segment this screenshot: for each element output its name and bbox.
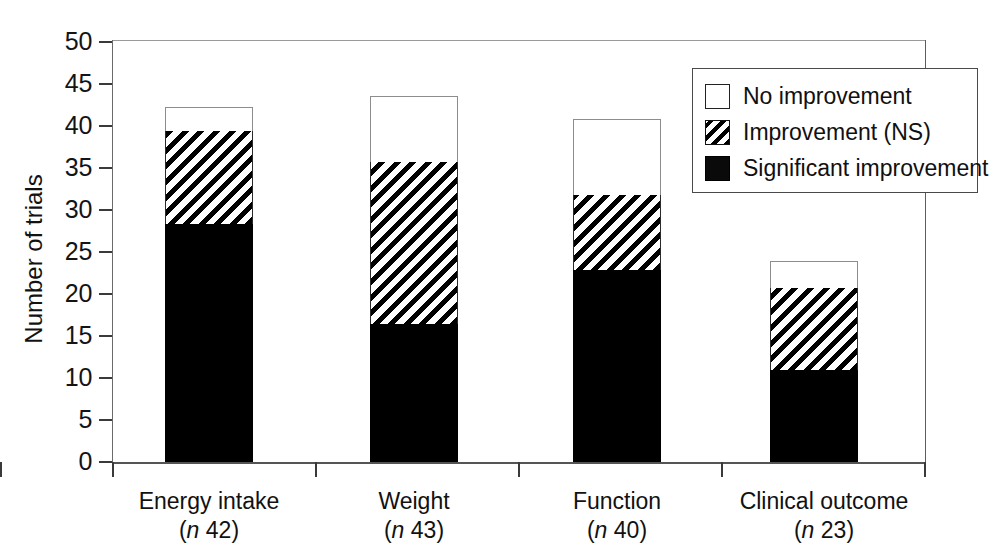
y-tick-label: 25 <box>2 239 92 264</box>
y-tick-label: 5 <box>2 407 92 432</box>
plot-frame-top <box>112 40 926 41</box>
y-tick-label: 35 <box>2 155 92 180</box>
bar-segment-significant-improvement <box>370 324 458 462</box>
y-tick-label: 45 <box>2 71 92 96</box>
black-square-icon <box>705 156 730 181</box>
hatched-square-icon <box>705 120 730 145</box>
category-name: Energy intake <box>116 487 302 516</box>
category-n: (n 40) <box>524 516 710 545</box>
y-tick-mark <box>99 125 112 127</box>
legend-item-no-improvement: No improvement <box>705 78 977 114</box>
y-tick-mark <box>99 251 112 253</box>
y-tick-mark <box>99 461 112 463</box>
chart-figure: Number of trials 50 45 40 35 30 25 20 <box>0 0 1008 550</box>
y-tick-label: 0 <box>2 449 92 474</box>
bar-segment-no-improvement <box>165 107 253 131</box>
y-tick-mark <box>99 293 112 295</box>
legend-item-significant-improvement: Significant improvement <box>705 150 977 186</box>
bar-segment-improvement-ns <box>370 162 458 324</box>
x-tick-mark <box>924 462 926 477</box>
category-name: Clinical outcome <box>721 487 927 516</box>
chart-legend: No improvement Improvement (NS) Signific… <box>692 68 978 193</box>
x-category-label-weight: Weight (n 43) <box>321 487 507 545</box>
y-tick-mark <box>99 41 112 43</box>
y-tick-mark <box>99 335 112 337</box>
y-tick-mark <box>99 209 112 211</box>
y-tick-mark <box>99 377 112 379</box>
y-tick-mark <box>99 419 112 421</box>
bar-segment-improvement-ns <box>770 288 858 370</box>
x-tick-mark <box>518 462 520 477</box>
category-name: Weight <box>321 487 507 516</box>
category-n: (n 43) <box>321 516 507 545</box>
x-category-label-clinical-outcome: Clinical outcome (n 23) <box>721 487 927 545</box>
category-n: (n 42) <box>116 516 302 545</box>
bar-segment-no-improvement <box>370 96 458 162</box>
bar-segment-significant-improvement <box>573 270 661 462</box>
bar-clinical-outcome <box>770 261 858 462</box>
y-axis-line <box>112 40 113 463</box>
y-tick-label: 40 <box>2 113 92 138</box>
y-tick-label: 15 <box>2 323 92 348</box>
bar-weight <box>370 96 458 462</box>
x-category-label-energy-intake: Energy intake (n 42) <box>116 487 302 545</box>
bar-segment-improvement-ns <box>165 131 253 224</box>
bar-energy-intake <box>165 107 253 462</box>
bar-segment-improvement-ns <box>573 195 661 270</box>
category-name: Function <box>524 487 710 516</box>
bar-segment-significant-improvement <box>165 224 253 462</box>
y-tick-label: 30 <box>2 197 92 222</box>
x-tick-mark <box>112 462 114 477</box>
y-tick-label: 10 <box>2 365 92 390</box>
x-tick-mark <box>721 462 723 477</box>
y-tick-label: 50 <box>2 29 92 54</box>
legend-item-improvement-ns: Improvement (NS) <box>705 114 977 150</box>
legend-label: Improvement (NS) <box>743 121 931 144</box>
category-n: (n 23) <box>721 516 927 545</box>
bar-segment-significant-improvement <box>770 370 858 462</box>
x-category-label-function: Function (n 40) <box>524 487 710 545</box>
y-tick-mark <box>99 167 112 169</box>
bar-segment-no-improvement <box>770 261 858 288</box>
white-square-icon <box>705 84 730 109</box>
legend-label: No improvement <box>743 85 912 108</box>
y-tick-mark <box>99 83 112 85</box>
x-tick-mark <box>315 462 317 477</box>
bar-function <box>573 119 661 462</box>
legend-label: Significant improvement <box>743 157 988 180</box>
y-tick-label: 20 <box>2 281 92 306</box>
bar-segment-no-improvement <box>573 119 661 195</box>
